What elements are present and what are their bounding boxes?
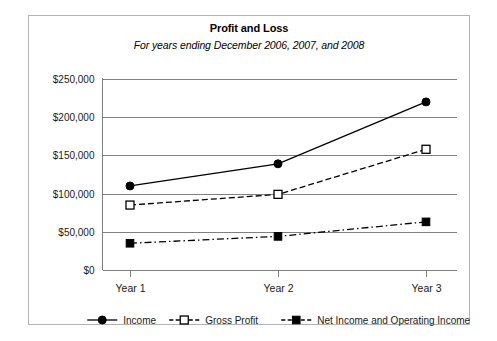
data-point-gross-profit bbox=[274, 190, 282, 198]
y-axis-tick-label: $150,000 bbox=[53, 150, 95, 161]
legend-item-income: Income bbox=[87, 315, 156, 326]
y-axis-tick-label: $250,000 bbox=[53, 74, 95, 85]
x-axis-tick-label: Year 2 bbox=[264, 282, 294, 294]
profit-and-loss-line-chart: $0$50,000$100,000$150,000$200,000$250,00… bbox=[29, 16, 471, 326]
data-point-net-income-and-operating-income bbox=[126, 239, 134, 247]
data-point-net-income-and-operating-income bbox=[422, 218, 430, 226]
legend-label-income: Income bbox=[123, 315, 156, 326]
chart-card: Profit and Loss For years ending Decembe… bbox=[28, 15, 470, 325]
series-markers bbox=[126, 98, 430, 247]
series-line-income bbox=[130, 102, 426, 186]
y-axis-tick-labels: $0$50,000$100,000$150,000$200,000$250,00… bbox=[53, 74, 95, 276]
y-axis-tick-label: $50,000 bbox=[58, 227, 95, 238]
data-point-income bbox=[422, 98, 430, 106]
data-point-income bbox=[126, 182, 134, 190]
legend-label-gross-profit: Gross Profit bbox=[205, 315, 258, 326]
y-axis-tick-label: $100,000 bbox=[53, 189, 95, 200]
data-point-gross-profit bbox=[422, 145, 430, 153]
chart-legend: IncomeGross ProfitNet Income and Operati… bbox=[87, 315, 470, 326]
x-axis-tick-label: Year 1 bbox=[116, 282, 146, 294]
data-point-gross-profit bbox=[126, 201, 134, 209]
y-axis-tick-label: $0 bbox=[83, 265, 95, 276]
y-axis-tick-label: $200,000 bbox=[53, 112, 95, 123]
legend-item-net-income-and-operating-income: Net Income and Operating Income bbox=[281, 315, 470, 326]
legend-item-gross-profit: Gross Profit bbox=[169, 315, 258, 326]
data-point-income bbox=[274, 160, 282, 168]
x-axis-tick-label: Year 3 bbox=[412, 282, 442, 294]
legend-marker-gross-profit bbox=[180, 316, 188, 324]
x-axis-tick-labels: Year 1Year 2Year 3 bbox=[116, 282, 442, 294]
data-point-net-income-and-operating-income bbox=[274, 233, 282, 241]
series-lines bbox=[130, 102, 426, 243]
legend-label-net-income-and-operating-income: Net Income and Operating Income bbox=[317, 315, 470, 326]
legend-marker-net-income-and-operating-income bbox=[292, 316, 300, 324]
legend-marker-income bbox=[98, 316, 106, 324]
